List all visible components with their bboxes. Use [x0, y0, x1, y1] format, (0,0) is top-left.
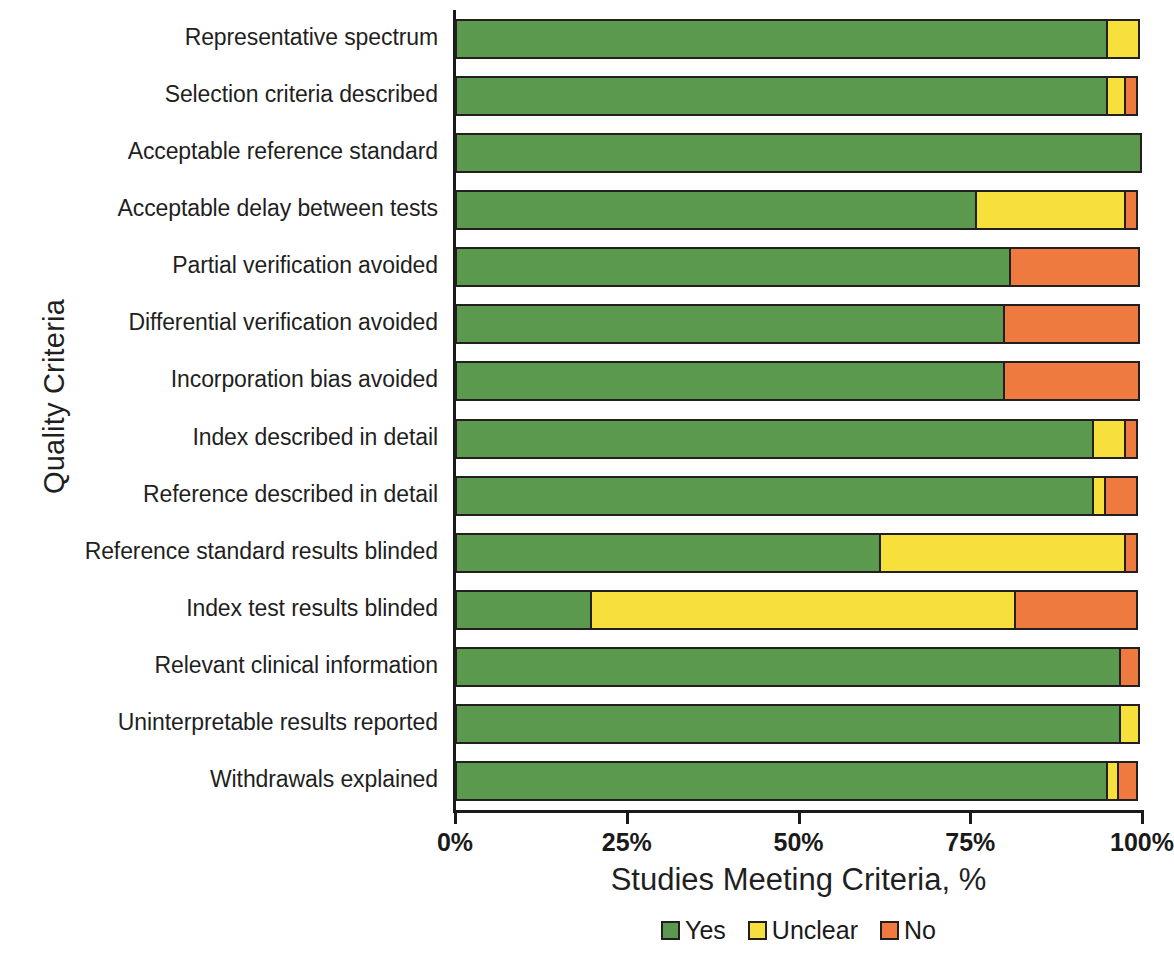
stacked-bar — [455, 361, 1142, 401]
bar-row — [455, 761, 1142, 801]
y-axis-label: Representative spectrum — [185, 24, 438, 51]
bar-segment-unclear — [1119, 704, 1140, 744]
bar-segment-unclear — [975, 190, 1126, 230]
bar-row — [455, 361, 1142, 401]
x-axis-tick — [1141, 811, 1144, 824]
bar-segment-yes — [455, 704, 1121, 744]
x-axis-tick-label: 25% — [602, 828, 652, 857]
bar-segment-unclear — [590, 590, 1016, 630]
bar-segment-yes — [455, 761, 1108, 801]
legend-item-no: No — [880, 918, 936, 943]
bar-row — [455, 133, 1142, 173]
y-axis-tick-labels: Representative spectrumSelection criteri… — [0, 10, 438, 810]
legend-swatch-yes — [661, 921, 680, 940]
bar-row — [455, 533, 1142, 573]
stacked-bar — [455, 647, 1142, 687]
legend-swatch-no — [880, 921, 899, 940]
legend-item-unclear: Unclear — [748, 918, 858, 943]
bar-segment-no — [1003, 361, 1140, 401]
y-axis-label: Reference standard results blinded — [85, 538, 438, 565]
bar-segment-unclear — [879, 533, 1126, 573]
bar-segment-yes — [455, 247, 1011, 287]
stacked-bar — [455, 19, 1142, 59]
bar-segment-no — [1003, 304, 1140, 344]
x-axis-tick — [454, 811, 457, 824]
y-axis-label: Withdrawals explained — [210, 766, 438, 793]
bar-segment-no — [1117, 761, 1138, 801]
y-axis-label: Relevant clinical information — [155, 652, 438, 679]
bar-segment-unclear — [1106, 19, 1140, 59]
bar-segment-no — [1124, 419, 1138, 459]
plot-area: 0%25%50%75%100% — [455, 10, 1142, 810]
bar-segment-no — [1014, 590, 1138, 630]
y-axis-label: Differential verification avoided — [128, 309, 438, 336]
legend-swatch-unclear — [748, 921, 767, 940]
y-axis-label: Selection criteria described — [165, 81, 438, 108]
bar-segment-yes — [455, 533, 881, 573]
y-axis-label: Incorporation bias avoided — [171, 366, 438, 393]
y-axis-label: Partial verification avoided — [172, 252, 438, 279]
x-axis-tick-label: 100% — [1110, 828, 1174, 857]
bar-segment-unclear — [1092, 419, 1126, 459]
stacked-bar — [455, 133, 1142, 173]
bar-segment-no — [1124, 533, 1138, 573]
bar-row — [455, 476, 1142, 516]
bar-row — [455, 590, 1142, 630]
y-axis-label: Acceptable delay between tests — [118, 195, 438, 222]
bar-row — [455, 419, 1142, 459]
bar-segment-yes — [455, 419, 1094, 459]
bar-row — [455, 304, 1142, 344]
stacked-bar — [455, 247, 1142, 287]
stacked-bar — [455, 590, 1142, 630]
bar-segment-yes — [455, 361, 1005, 401]
legend-label: Unclear — [772, 918, 858, 943]
stacked-bar — [455, 76, 1142, 116]
bar-segment-no — [1124, 190, 1138, 230]
stacked-bar — [455, 304, 1142, 344]
stacked-bar — [455, 419, 1142, 459]
y-axis-label: Index described in detail — [192, 424, 438, 451]
bar-segment-yes — [455, 19, 1108, 59]
stacked-bar — [455, 190, 1142, 230]
bar-segment-yes — [455, 647, 1121, 687]
bar-segment-yes — [455, 76, 1108, 116]
stacked-bar — [455, 476, 1142, 516]
bar-segment-unclear — [1106, 76, 1127, 116]
bar-row — [455, 704, 1142, 744]
x-axis-tick-label: 0% — [437, 828, 473, 857]
bar-row — [455, 76, 1142, 116]
legend-label: No — [904, 918, 936, 943]
bar-row — [455, 190, 1142, 230]
bar-segment-no — [1009, 247, 1140, 287]
y-axis-label: Uninterpretable results reported — [118, 709, 438, 736]
x-axis-tick-label: 50% — [773, 828, 823, 857]
x-axis-title: Studies Meeting Criteria, % — [455, 862, 1142, 898]
legend-label: Yes — [685, 918, 726, 943]
bar-segment-no — [1119, 647, 1140, 687]
bar-segment-yes — [455, 133, 1142, 173]
bar-row — [455, 247, 1142, 287]
bar-row — [455, 647, 1142, 687]
y-axis-label: Reference described in detail — [143, 481, 438, 508]
x-axis-tick — [969, 811, 972, 824]
bar-segment-yes — [455, 476, 1094, 516]
bar-segment-no — [1124, 76, 1138, 116]
y-axis-line — [453, 10, 456, 810]
chart-legend: YesUnclearNo — [455, 918, 1142, 943]
y-axis-label: Index test results blinded — [186, 595, 438, 622]
legend-item-yes: Yes — [661, 918, 726, 943]
x-axis-tick-label: 75% — [945, 828, 995, 857]
stacked-bar-chart: Quality Criteria Representative spectrum… — [0, 0, 1174, 960]
stacked-bar — [455, 704, 1142, 744]
stacked-bar — [455, 761, 1142, 801]
x-axis-tick — [798, 811, 801, 824]
bar-segment-yes — [455, 304, 1005, 344]
bar-segment-yes — [455, 590, 592, 630]
x-axis-tick — [626, 811, 629, 824]
y-axis-label: Acceptable reference standard — [128, 138, 438, 165]
stacked-bar — [455, 533, 1142, 573]
bar-segment-yes — [455, 190, 977, 230]
bar-row — [455, 19, 1142, 59]
bar-segment-no — [1104, 476, 1138, 516]
